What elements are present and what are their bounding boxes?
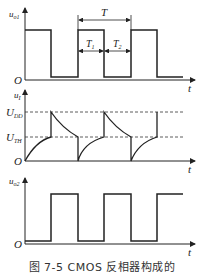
plot-uo2	[25, 178, 195, 244]
origin-label: O	[14, 74, 22, 86]
ui-label: uI	[14, 90, 22, 101]
t1-label: T1	[86, 38, 95, 50]
rc-wave-ui	[25, 112, 157, 161]
uo2-label: uo2	[9, 176, 20, 187]
t-label: t	[188, 163, 192, 175]
plot-ui	[25, 90, 195, 161]
t-label: t	[188, 246, 192, 258]
origin-label: O	[14, 155, 22, 167]
udd-label: UDD	[6, 106, 23, 119]
t-label: t	[188, 82, 192, 94]
plot-uo1	[25, 8, 195, 80]
origin-label: O	[14, 238, 22, 250]
waveform-diagram: uo1 O t T T1 T2 uI UDD UTH O t uo2 O t	[0, 0, 204, 275]
period-label: T	[101, 6, 108, 18]
uo1-label: uo1	[9, 9, 20, 20]
square-wave-uo2	[25, 194, 183, 241]
square-wave-uo1	[25, 30, 183, 77]
t2-label: T2	[113, 38, 122, 50]
figure-caption: 图 7-5 CMOS 反相器构成的	[0, 258, 204, 274]
uth-label: UTH	[6, 131, 22, 144]
